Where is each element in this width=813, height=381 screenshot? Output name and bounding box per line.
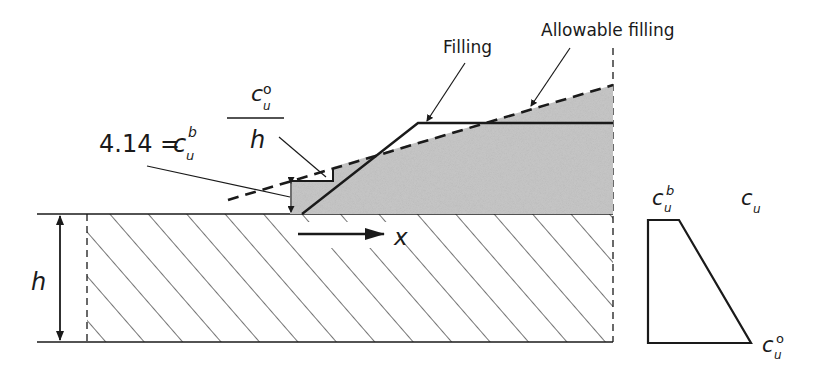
allowable-filling-region	[290, 85, 613, 214]
clay-filling-diagram: h x Filling Allowable filling 4.14 = c u…	[0, 0, 813, 381]
cuo-bottom-label: c	[762, 333, 774, 357]
strength-profile-diagram: c u b c u c u o	[648, 183, 784, 362]
cub-leader	[147, 166, 290, 197]
svg-text:c: c	[173, 130, 186, 158]
svg-text:c: c	[251, 81, 263, 106]
svg-text:h: h	[250, 126, 265, 154]
cub-equation: 4.14 = c u b	[99, 124, 197, 163]
initial-step-outline	[290, 168, 333, 181]
allowable-leader	[531, 48, 570, 106]
svg-text:o: o	[776, 331, 784, 346]
filling-label: Filling	[443, 37, 492, 57]
svg-text:u: u	[263, 99, 271, 113]
svg-text:u: u	[186, 148, 194, 163]
strength-gradient-label: c u o h	[227, 81, 284, 154]
x-axis-label: x	[393, 224, 408, 250]
cu-axis-label: c	[741, 186, 753, 210]
svg-text:u: u	[664, 201, 672, 215]
svg-text:4.14 =: 4.14 =	[99, 130, 180, 158]
gradient-leader	[279, 137, 326, 177]
allowable-filling-label: Allowable filling	[541, 20, 675, 40]
svg-text:b: b	[666, 183, 674, 198]
svg-text:b: b	[188, 124, 197, 140]
cub-top-label: c	[652, 186, 664, 210]
strength-profile-trapezoid	[648, 220, 751, 343]
filling-leader	[427, 63, 465, 121]
depth-label-h: h	[31, 268, 46, 296]
svg-text:o: o	[263, 81, 272, 97]
svg-text:u: u	[774, 348, 782, 362]
svg-text:u: u	[753, 202, 761, 216]
